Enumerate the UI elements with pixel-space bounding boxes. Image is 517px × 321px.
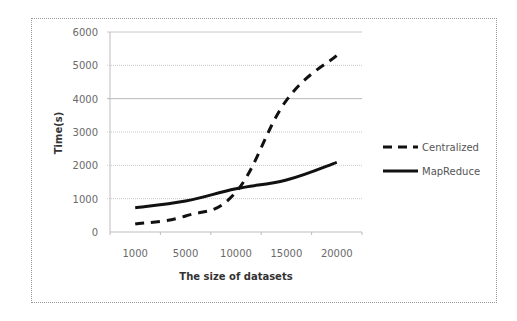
legend-item-mapreduce: MapReduce (383, 166, 480, 177)
y-tick-label: 0 (92, 227, 98, 238)
y-tick-label: 6000 (73, 27, 98, 38)
x-tick-label: 20000 (321, 248, 353, 259)
legend-label-centralized: Centralized (422, 142, 479, 153)
y-axis-title: Time(s) (53, 112, 64, 155)
y-tick-label: 3000 (73, 127, 98, 138)
y-tick-label: 1000 (73, 194, 98, 205)
y-axis-ticks: 0100020003000400050006000 (73, 27, 98, 238)
y-tick-label: 2000 (73, 160, 98, 171)
line-chart: 0100020003000400050006000 10005000100001… (0, 0, 517, 321)
gridlines (107, 32, 362, 199)
series-line-mapreduce (135, 162, 337, 207)
x-tick-label: 10000 (220, 248, 252, 259)
legend: Centralized MapReduce (383, 142, 480, 177)
x-tick-label: 1000 (122, 248, 147, 259)
x-axis-ticks: 10005000100001500020000 (110, 232, 362, 259)
x-axis-title: The size of datasets (179, 271, 292, 282)
legend-item-centralized: Centralized (383, 142, 479, 153)
x-tick-label: 5000 (173, 248, 198, 259)
x-tick-label: 15000 (270, 248, 302, 259)
y-tick-label: 5000 (73, 60, 98, 71)
y-tick-label: 4000 (73, 94, 98, 105)
legend-label-mapreduce: MapReduce (422, 166, 480, 177)
